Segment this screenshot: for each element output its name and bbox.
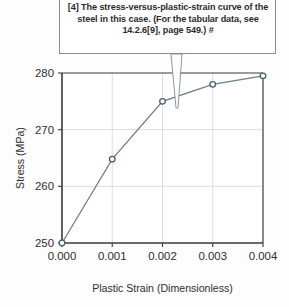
ytick-labels: 250 260 270 280 [35, 67, 54, 249]
xtick-label-0.003: 0.003 [198, 250, 227, 262]
xtick-label-0.000: 0.000 [48, 250, 77, 262]
xtick-label-0.001: 0.001 [98, 250, 127, 262]
ytick-label-260: 260 [35, 180, 54, 192]
ytick-label-270: 270 [35, 124, 54, 136]
y-axis-title: Stress (MPa) [14, 127, 26, 189]
annotation-callout-box: [4] The stress-versus-plastic-strain cur… [59, 0, 276, 54]
ytick-label-250: 250 [35, 237, 54, 249]
data-point-2 [109, 156, 115, 162]
ytick-label-280: 280 [35, 67, 54, 79]
data-point-5 [260, 73, 266, 79]
figure-root: [4] The stress-versus-plastic-strain cur… [0, 0, 289, 307]
annotation-text: [4] The stress-versus-plastic-strain cur… [66, 2, 270, 37]
data-point-4 [210, 82, 216, 88]
data-point-3 [160, 99, 166, 105]
xtick-label-0.002: 0.002 [148, 250, 177, 262]
xtick-labels: 0.000 0.001 0.002 0.003 0.004 [48, 250, 278, 262]
x-axis-title: Plastic Strain (Dimensionless) [92, 282, 233, 294]
data-point-1 [59, 240, 65, 246]
xtick-label-0.004: 0.004 [249, 250, 278, 262]
